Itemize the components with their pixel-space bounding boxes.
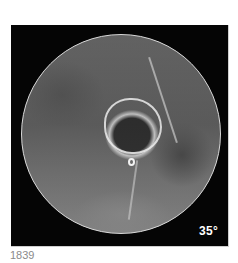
sinus-ostium-outline [104, 98, 162, 154]
endoscope-view-circle [21, 34, 221, 234]
endoscope-angle-label: 35° [199, 224, 218, 238]
bone-ridge [128, 160, 138, 220]
figure-number: 1839 [10, 249, 34, 261]
ostium-marker [128, 158, 135, 166]
endoscopic-image-frame: 35° [11, 25, 229, 247]
